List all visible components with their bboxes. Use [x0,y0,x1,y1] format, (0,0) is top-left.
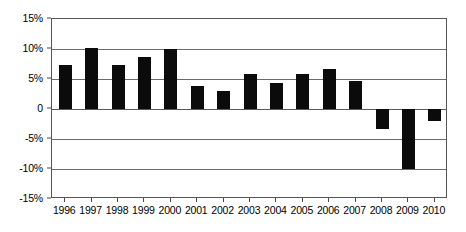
x-tick-mark [196,198,197,202]
x-tick-mark [117,198,118,202]
y-tick-label: 5% [28,72,43,84]
x-tick-mark [381,198,382,202]
x-tick-label: 2010 [423,204,446,216]
bar [85,48,98,109]
x-tick-mark [64,198,65,202]
plot-area [51,18,447,198]
x-tick-label: 2004 [264,204,287,216]
bar [244,74,257,109]
bar [112,65,125,109]
bar [59,65,72,109]
y-tick-label: -10% [19,162,43,174]
x-tick-label: 2002 [211,204,234,216]
x-axis: 1996199719981999200020012002200320042005… [51,198,447,232]
x-tick-mark [434,198,435,202]
x-tick-mark [355,198,356,202]
x-tick-label: 2007 [343,204,366,216]
x-tick-label: 2000 [159,204,182,216]
x-tick-label: 2001 [185,204,208,216]
x-tick-mark [170,198,171,202]
bar [217,91,230,109]
x-tick-mark [328,198,329,202]
x-tick-mark [249,198,250,202]
x-tick-label: 1999 [132,204,155,216]
x-tick-label: 1997 [79,204,102,216]
y-tick-label: 0 [37,102,43,114]
y-tick-label: -15% [19,192,43,204]
bar-chart: 15%10%5%0-5%-10%-15% 1996199719981999200… [0,0,466,232]
bars-layer [52,19,446,197]
x-tick-mark [275,198,276,202]
x-tick-label: 2006 [317,204,340,216]
bar [191,86,204,109]
y-axis: 15%10%5%0-5%-10%-15% [0,0,51,232]
bar [402,109,415,169]
bar [428,109,441,121]
x-tick-label: 1996 [53,204,76,216]
x-tick-mark [407,198,408,202]
x-tick-mark [302,198,303,202]
bar [164,49,177,109]
bar [270,83,283,109]
x-tick-mark [223,198,224,202]
x-tick-mark [91,198,92,202]
y-tick-label: 10% [23,42,43,54]
x-tick-label: 1998 [106,204,129,216]
y-tick-label: -5% [25,132,43,144]
bar [323,69,336,109]
x-tick-label: 2008 [370,204,393,216]
y-tick-label: 15% [23,12,43,24]
x-tick-mark [143,198,144,202]
x-tick-label: 2009 [396,204,419,216]
x-tick-label: 2005 [291,204,314,216]
bar [138,57,151,109]
bar [296,74,309,109]
bar [376,109,389,129]
bar [349,81,362,109]
x-tick-label: 2003 [238,204,261,216]
